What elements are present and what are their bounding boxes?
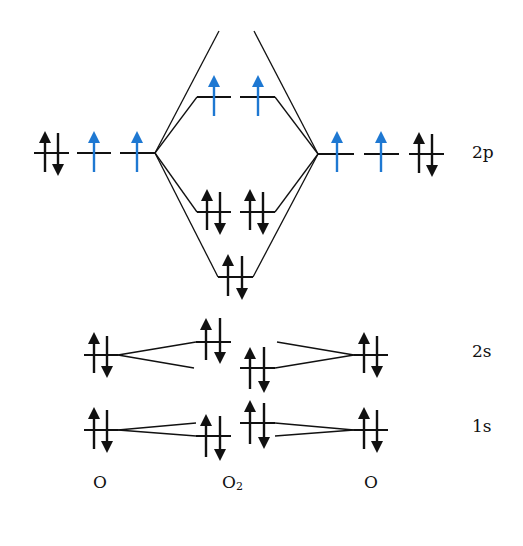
molecule-symbol: O <box>222 472 236 492</box>
molecule-subscript: 2 <box>236 480 243 493</box>
energy-label-2s: 2s <box>472 341 492 361</box>
orbital-levels <box>34 97 444 436</box>
energy-label-1s: 1s <box>472 416 492 436</box>
electron-pair-icon <box>206 318 220 360</box>
correlation-lines <box>118 31 354 436</box>
mo-diagram: 2p 2s 1s O O2 O <box>0 0 523 546</box>
left-atom-label: O <box>93 472 107 492</box>
electrons <box>45 81 432 457</box>
molecule-label: O2 <box>222 472 243 493</box>
right-atom-label: O <box>364 472 378 492</box>
energy-label-2p: 2p <box>472 142 494 162</box>
